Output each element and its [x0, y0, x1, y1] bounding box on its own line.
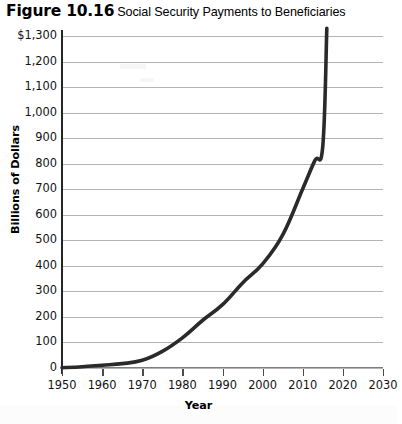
x-axis-title: Year [0, 399, 397, 412]
gridline [62, 87, 383, 88]
y-axis-tick-label: 1,200 [5, 56, 57, 67]
y-axis-tick-label: 600 [5, 209, 57, 220]
x-axis-tick-label: 2000 [240, 378, 286, 392]
gridline [62, 189, 383, 190]
x-axis-tick-mark [62, 369, 63, 376]
gridline [62, 113, 383, 114]
x-axis-tick-label: 2020 [320, 378, 366, 392]
y-axis-tick-label: 800 [5, 158, 57, 169]
gridline [62, 342, 383, 343]
gridline [62, 62, 383, 63]
x-axis-tick-label: 1990 [200, 378, 246, 392]
x-axis-tick-label: 1950 [39, 378, 85, 392]
x-axis-tick-label: 1980 [159, 378, 205, 392]
x-axis-tick-mark [303, 369, 304, 376]
gridline [62, 215, 383, 216]
gridline [62, 138, 383, 139]
gridline [62, 164, 383, 165]
gridline [62, 291, 383, 292]
y-axis-tick-label: 1,100 [5, 81, 57, 92]
x-axis-tick-mark [263, 369, 264, 376]
figure-caption: Figure 10.16Social Security Payments to … [6, 2, 394, 22]
x-axis-tick-label: 1970 [119, 378, 165, 392]
x-axis-tick-label: 2010 [280, 378, 326, 392]
y-axis-tick-label: 500 [5, 234, 57, 245]
y-axis-tick-label: 400 [5, 260, 57, 271]
y-axis-tick-label: 300 [5, 285, 57, 296]
x-axis-tick-mark [383, 369, 384, 376]
gridline [62, 266, 383, 267]
y-axis-tick-label: 1,000 [5, 107, 57, 118]
y-axis-tick-label: 900 [5, 132, 57, 143]
gridline [62, 317, 383, 318]
y-axis-tick-label: $1,300 [5, 30, 57, 41]
y-axis-tick-labels: $1,3001,2001,1001,0009008007006005004003… [0, 0, 57, 424]
figure-title: Social Security Payments to Beneficiarie… [114, 5, 345, 19]
plot-area [62, 36, 383, 368]
y-axis-tick-label: 100 [5, 336, 57, 347]
y-axis-tick-label: 0 [5, 362, 57, 373]
x-axis-tick-mark [142, 369, 143, 376]
y-axis-tick-label: 700 [5, 183, 57, 194]
x-axis-tick-mark [102, 369, 103, 376]
y-axis-tick-label: 200 [5, 311, 57, 322]
x-axis-tick-mark [223, 369, 224, 376]
x-axis-tick-label: 1960 [79, 378, 125, 392]
gridline [62, 36, 383, 37]
y-axis-line [61, 30, 63, 374]
x-axis-tick-label: 2030 [360, 378, 402, 392]
x-axis-tick-mark [182, 369, 183, 376]
gridline [62, 240, 383, 241]
x-axis-tick-mark [343, 369, 344, 376]
